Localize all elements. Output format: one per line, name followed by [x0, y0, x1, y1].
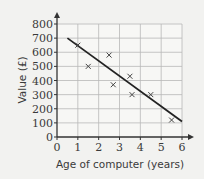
x-axis-arrow-icon	[188, 134, 194, 140]
x-tick-label: 3	[116, 141, 123, 154]
y-tick-label: 200	[32, 103, 53, 116]
x-tick-label: 1	[74, 141, 81, 154]
y-tick-label: 700	[32, 32, 53, 45]
y-tick-label: 800	[32, 18, 53, 31]
x-tick-label: 2	[95, 141, 102, 154]
y-axis-label: Value (£)	[16, 56, 28, 103]
x-tick-label: 6	[179, 141, 186, 154]
scatter-chart: 01234560100200300400500600700800 Age of …	[0, 0, 204, 179]
y-tick-label: 400	[32, 75, 53, 88]
y-tick-label: 600	[32, 46, 53, 59]
grid-lines	[57, 24, 182, 137]
y-tick-label: 100	[32, 117, 53, 130]
x-tick-label: 4	[137, 141, 144, 154]
y-axis-arrow-icon	[54, 12, 60, 18]
x-tick-label: 5	[158, 141, 165, 154]
y-tick-label: 300	[32, 89, 53, 102]
x-axis-label: Age of computer (years)	[56, 158, 184, 170]
y-tick-label: 0	[46, 131, 53, 144]
y-tick-label: 500	[32, 60, 53, 73]
x-tick-label: 0	[54, 141, 61, 154]
